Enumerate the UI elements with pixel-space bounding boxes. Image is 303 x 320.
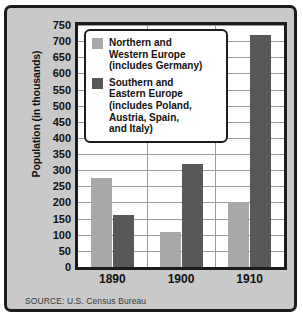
bar-1900-series-1 bbox=[160, 232, 181, 267]
y-axis-tick-label: 150 bbox=[35, 213, 71, 225]
y-axis-tick-labels: 7507006506005505004504003503002502001501… bbox=[35, 22, 71, 270]
y-axis-tick-label: 250 bbox=[35, 180, 71, 192]
chart-outer-frame: Population (in thousands) 75070065060055… bbox=[4, 5, 297, 312]
bar-1890-series-1 bbox=[91, 178, 112, 267]
x-axis-tick-label: 1910 bbox=[236, 272, 263, 286]
legend-item-label: Southern and Eastern Europe (includes Po… bbox=[109, 77, 192, 135]
legend-item-label: Northern and Western Europe (includes Ge… bbox=[109, 37, 202, 72]
x-axis-tick-labels: 189019001910 bbox=[75, 272, 287, 290]
y-axis-tick-label: 0 bbox=[35, 261, 71, 273]
legend-item-northern-western-europe: Northern and Western Europe (includes Ge… bbox=[92, 37, 220, 72]
y-axis-tick-label: 300 bbox=[35, 164, 71, 176]
y-axis-tick-label: 750 bbox=[35, 19, 71, 31]
chart-legend: Northern and Western Europe (includes Ge… bbox=[84, 29, 228, 143]
bar-1910-series-1 bbox=[228, 202, 249, 267]
light-gray-swatch-icon bbox=[92, 38, 103, 49]
y-axis-tick-label: 550 bbox=[35, 84, 71, 96]
horizontal-gridline bbox=[78, 267, 284, 268]
legend-item-southern-eastern-europe: Southern and Eastern Europe (includes Po… bbox=[92, 77, 220, 135]
bar-1890-series-2 bbox=[113, 215, 134, 267]
bar-1910-series-2 bbox=[250, 35, 271, 267]
y-axis-tick-label: 700 bbox=[35, 35, 71, 47]
dark-gray-swatch-icon bbox=[92, 78, 103, 89]
plot-area: Northern and Western Europe (includes Ge… bbox=[75, 22, 287, 270]
y-axis-tick-label: 600 bbox=[35, 67, 71, 79]
immigration-bar-chart-figure: Population (in thousands) 75070065060055… bbox=[0, 0, 303, 320]
y-axis-tick-label: 200 bbox=[35, 196, 71, 208]
y-axis-tick-label: 400 bbox=[35, 132, 71, 144]
y-axis-tick-label: 650 bbox=[35, 51, 71, 63]
y-axis-tick-label: 450 bbox=[35, 116, 71, 128]
y-axis-tick-label: 100 bbox=[35, 229, 71, 241]
horizontal-gridline bbox=[78, 25, 284, 26]
y-axis-tick-label: 500 bbox=[35, 100, 71, 112]
bar-1900-series-2 bbox=[182, 164, 203, 267]
x-axis-tick-label: 1890 bbox=[99, 272, 126, 286]
source-note: SOURCE: U.S. Census Bureau bbox=[25, 296, 146, 306]
y-axis-tick-label: 350 bbox=[35, 148, 71, 160]
x-axis-tick-label: 1900 bbox=[168, 272, 195, 286]
y-axis-tick-label: 50 bbox=[35, 245, 71, 257]
